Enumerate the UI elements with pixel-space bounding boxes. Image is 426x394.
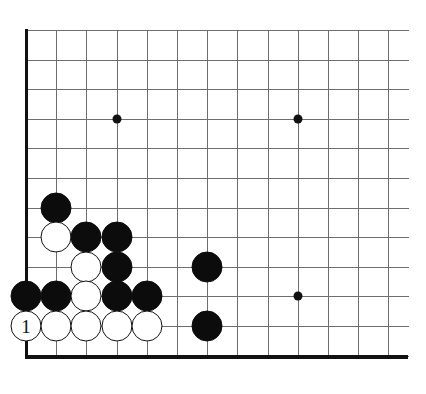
grid-line-horizontal [26, 30, 409, 31]
grid-line-vertical [177, 30, 178, 356]
stone-white [71, 251, 102, 282]
move-number-label: 1 [12, 312, 41, 341]
stone-black [71, 222, 102, 253]
grid-line-horizontal [26, 148, 409, 149]
grid-line-horizontal [26, 60, 409, 61]
stone-black [192, 251, 223, 282]
stone-black [11, 281, 42, 312]
grid-line-vertical [207, 30, 208, 356]
stone-black [101, 281, 132, 312]
stone-white [41, 222, 72, 253]
grid-line-vertical [237, 30, 238, 356]
grid-line-vertical [268, 30, 269, 356]
stone-white [71, 281, 102, 312]
star-point [293, 292, 302, 301]
star-point [112, 114, 121, 123]
stone-white [41, 311, 72, 342]
stone-white [71, 311, 102, 342]
board-edge-bottom [25, 355, 408, 359]
stone-black [131, 281, 162, 312]
stone-white-numbered: 1 [11, 311, 42, 342]
stone-black [41, 281, 72, 312]
grid-line-vertical [358, 30, 359, 356]
stone-black [101, 222, 132, 253]
grid-line-vertical [328, 30, 329, 356]
grid-line-horizontal [26, 178, 409, 179]
stone-black [41, 192, 72, 223]
grid-line-vertical [388, 30, 389, 356]
stone-black [101, 251, 132, 282]
star-point [293, 114, 302, 123]
grid-line-horizontal [26, 89, 409, 90]
grid-line-horizontal [26, 208, 409, 209]
stone-white [131, 311, 162, 342]
grid-line-horizontal [26, 119, 409, 120]
go-board-diagram: 1 [0, 0, 426, 394]
stone-white [101, 311, 132, 342]
grid-line-vertical [298, 30, 299, 356]
stone-black [192, 311, 223, 342]
